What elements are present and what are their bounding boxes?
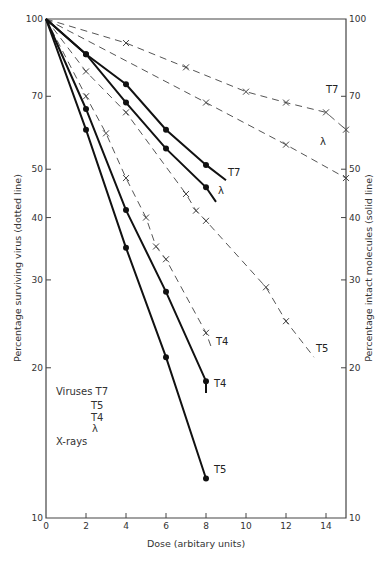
y-left-tick-label: 30 xyxy=(32,275,44,285)
data-point-dot xyxy=(123,245,129,251)
data-point-dot xyxy=(163,146,169,152)
data-point-dot xyxy=(163,127,169,133)
series-label: λ xyxy=(320,136,326,147)
data-point-cross xyxy=(263,284,269,290)
data-point-cross xyxy=(83,93,89,99)
series-line-1 xyxy=(46,19,346,178)
y-axis-right-title: Percentage intact molecules (solid line) xyxy=(363,174,374,362)
data-point-cross xyxy=(203,100,209,106)
data-point-dot xyxy=(203,162,209,168)
y-left-tick-label: 70 xyxy=(32,91,44,101)
data-point-cross xyxy=(203,330,209,336)
x-tick-label: 8 xyxy=(203,521,209,531)
data-point-cross xyxy=(193,208,199,214)
data-point-cross xyxy=(203,218,209,224)
legend-t4: T4 xyxy=(90,412,103,423)
legend-viruses-t7: Viruses T7 xyxy=(56,386,108,397)
legend-t5: T5 xyxy=(90,400,103,411)
x-tick-label: 10 xyxy=(240,521,252,531)
x-tick-label: 4 xyxy=(123,521,129,531)
series-line-0 xyxy=(46,19,346,130)
y-right-tick-label: 20 xyxy=(349,363,361,373)
y-right-tick-label: 100 xyxy=(349,14,366,24)
data-point-cross xyxy=(283,318,289,324)
plot-frame xyxy=(46,19,346,518)
legend-lambda: λ xyxy=(92,423,98,434)
data-point-cross xyxy=(143,215,149,221)
x-tick-label: 12 xyxy=(280,521,291,531)
data-point-cross xyxy=(83,68,89,74)
data-point-dot xyxy=(203,378,209,384)
y-right-tick-label: 30 xyxy=(349,275,361,285)
legend-x-rays: X-rays xyxy=(56,436,87,447)
data-point-dot xyxy=(163,354,169,360)
series-label: λ xyxy=(218,185,224,196)
series-label: T4 xyxy=(215,336,228,347)
data-point-dot xyxy=(83,106,89,112)
data-point-dot xyxy=(123,207,129,213)
data-point-cross xyxy=(123,175,129,181)
legend: Viruses T7 T5 T4 λ X-rays xyxy=(56,386,108,447)
data-point-dot xyxy=(203,184,209,190)
data-point-dot xyxy=(83,51,89,57)
data-point-cross xyxy=(183,191,189,197)
x-tick-label: 2 xyxy=(83,521,89,531)
series-label: T5 xyxy=(315,343,328,354)
data-point-dot xyxy=(123,100,129,106)
y-right-tick-label: 50 xyxy=(349,164,361,174)
data-point-cross xyxy=(283,100,289,106)
x-tick-label: 6 xyxy=(163,521,169,531)
y-left-tick-label: 100 xyxy=(26,14,43,24)
y-axis-left-title: Percentage surviving virus (dotted line) xyxy=(12,174,23,362)
x-tick-label: 14 xyxy=(320,521,332,531)
series-label: T7 xyxy=(325,84,338,95)
data-point-dot xyxy=(203,475,209,481)
series-line-5 xyxy=(46,19,216,202)
series-label: T7 xyxy=(227,167,240,178)
y-left-tick-label: 40 xyxy=(32,213,44,223)
y-left-tick-label: 50 xyxy=(32,164,44,174)
data-point-cross xyxy=(123,109,129,115)
y-right-tick-label: 70 xyxy=(349,91,361,101)
data-point-cross xyxy=(243,89,249,95)
axes: 0246810121410203040507010010203040507010… xyxy=(26,14,367,531)
data-point-cross xyxy=(283,142,289,148)
data-point-cross xyxy=(103,130,109,136)
y-left-tick-label: 10 xyxy=(32,513,44,523)
plot-border xyxy=(46,19,346,518)
series-line-2 xyxy=(46,19,314,357)
chart-canvas: 0246810121410203040507010010203040507010… xyxy=(0,0,386,561)
data-point-cross xyxy=(183,64,189,70)
y-left-tick-label: 20 xyxy=(32,363,44,373)
x-tick-label: 0 xyxy=(43,521,49,531)
data-point-cross xyxy=(123,40,129,46)
data-point-cross xyxy=(153,244,159,250)
series-line-6 xyxy=(46,19,206,393)
y-right-tick-label: 10 xyxy=(349,513,361,523)
x-axis-title: Dose (arbitary units) xyxy=(147,538,245,549)
data-point-dot xyxy=(83,127,89,133)
data-point-cross xyxy=(163,256,169,262)
series-label: T4 xyxy=(213,378,226,389)
data-point-dot xyxy=(123,81,129,87)
y-right-tick-label: 40 xyxy=(349,213,361,223)
data-point-dot xyxy=(163,289,169,295)
series-labels: T7λT5T4T7λT4T5 xyxy=(213,84,338,475)
series-label: T5 xyxy=(213,464,226,475)
